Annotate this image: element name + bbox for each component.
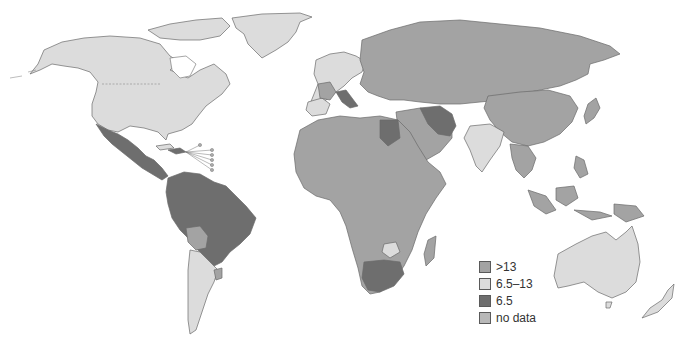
legend-swatch-gt13 [479,261,491,273]
legend: >13 6.5–13 6.5 no data [479,258,536,326]
region-madagascar [424,236,436,266]
legend-item-low: 6.5 [479,292,536,309]
legend-item-mid: 6.5–13 [479,275,536,292]
region-australia [554,226,640,298]
caribbean-callout-lines [186,143,214,171]
legend-swatch-mid [479,278,491,290]
region-indonesia [528,186,612,220]
region-philippines [574,156,588,178]
region-greenland [232,13,312,58]
region-north-america [30,36,230,140]
legend-swatch-nodata [479,312,491,324]
legend-label: 6.5 [496,294,513,308]
region-south-africa [362,260,404,292]
region-japan [584,98,600,124]
world-map [0,0,688,347]
region-arctic-islands [148,18,230,40]
legend-label: >13 [496,260,516,274]
region-tasmania [606,302,612,308]
region-italy-balkans [336,90,358,108]
region-mexico-central-america [96,124,168,180]
region-caribbean [168,148,186,154]
aleutian-islands [10,70,36,78]
legend-label: 6.5–13 [496,277,533,291]
legend-label: no data [496,311,536,325]
region-northern-south-america [166,172,256,266]
region-iberia [306,98,330,116]
region-india [464,124,504,172]
region-russia-central-asia [360,20,620,104]
region-new-zealand [642,284,674,318]
legend-item-gt13: >13 [479,258,536,275]
legend-item-nodata: no data [479,309,536,326]
region-southeast-asia [510,144,536,178]
region-png [614,204,644,222]
legend-swatch-low [479,295,491,307]
